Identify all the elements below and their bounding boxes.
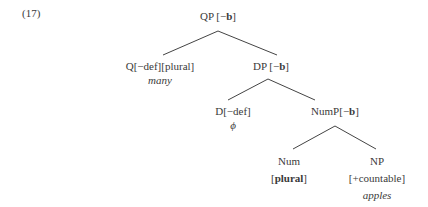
node-dp: DP [−b] bbox=[253, 59, 289, 73]
q-label: Q[−def][plural] bbox=[126, 59, 195, 73]
node-d: D[−def] ϕ bbox=[215, 104, 251, 132]
num-feature-close: ] bbox=[303, 172, 307, 184]
dp-feature-open: [− bbox=[269, 60, 279, 72]
node-np: NP [+countable] apples bbox=[349, 153, 405, 204]
qp-feature-open: [− bbox=[216, 10, 226, 22]
edge-dp-d bbox=[228, 79, 268, 100]
edge-qp-q bbox=[163, 31, 218, 55]
node-num: Num [plural] bbox=[271, 153, 307, 187]
num-feature-plural: plural bbox=[275, 172, 304, 184]
qp-feature-close: ] bbox=[232, 10, 236, 22]
num-feature: [plural] bbox=[271, 170, 307, 187]
dp-category: DP bbox=[253, 60, 269, 72]
edge-qp-dp bbox=[218, 31, 277, 55]
node-nump: NumP[−b] bbox=[311, 104, 359, 118]
np-lexical: apples bbox=[349, 187, 405, 204]
np-feature: [+countable] bbox=[349, 170, 405, 187]
num-label: Num bbox=[271, 153, 307, 170]
nump-feature-close: ] bbox=[355, 105, 359, 117]
edge-dp-nump bbox=[268, 79, 315, 100]
node-qp: QP [−b] bbox=[200, 9, 236, 23]
node-q: Q[−def][plural] many bbox=[126, 59, 195, 87]
edge-nump-np bbox=[335, 126, 376, 149]
d-lexical: ϕ bbox=[215, 118, 251, 132]
np-label: NP bbox=[349, 153, 405, 170]
edge-nump-num bbox=[293, 126, 335, 149]
nump-category: NumP bbox=[311, 105, 339, 117]
q-lexical: many bbox=[126, 73, 195, 87]
dp-feature-close: ] bbox=[285, 60, 289, 72]
nump-feature-open: [− bbox=[339, 105, 349, 117]
qp-category: QP bbox=[200, 10, 216, 22]
d-label: D[−def] bbox=[215, 104, 251, 118]
